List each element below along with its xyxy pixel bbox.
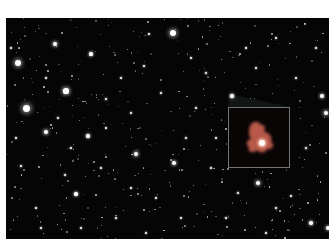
faint-star <box>50 124 52 126</box>
faint-star <box>76 27 77 28</box>
faint-star <box>78 78 79 79</box>
faint-star <box>299 208 301 210</box>
faint-star <box>38 25 39 26</box>
faint-star <box>98 99 99 100</box>
faint-star <box>246 202 247 203</box>
faint-star <box>84 117 85 118</box>
faint-star <box>163 230 164 231</box>
faint-star <box>139 36 140 37</box>
faint-star <box>255 84 257 86</box>
faint-star <box>95 194 97 196</box>
faint-star <box>11 141 12 142</box>
faint-star <box>175 29 176 30</box>
faint-star <box>122 123 123 124</box>
faint-star <box>224 72 225 73</box>
faint-star <box>183 195 184 196</box>
faint-star <box>211 107 212 108</box>
faint-star <box>283 198 284 199</box>
faint-star <box>47 91 49 93</box>
faint-star <box>41 37 42 38</box>
faint-star <box>149 188 150 189</box>
faint-star <box>278 85 279 86</box>
faint-star <box>108 19 109 20</box>
faint-star <box>188 196 190 198</box>
faint-star <box>145 138 146 139</box>
star-point <box>230 94 233 97</box>
faint-star <box>319 143 320 144</box>
faint-star <box>143 167 145 169</box>
faint-star <box>117 172 118 173</box>
faint-star <box>178 154 179 155</box>
faint-star <box>203 211 204 212</box>
faint-star <box>79 120 80 121</box>
faint-star <box>35 31 36 32</box>
faint-star <box>67 180 69 182</box>
faint-star <box>62 185 63 186</box>
star-point <box>89 52 92 55</box>
faint-star <box>304 23 305 24</box>
faint-star <box>108 173 109 174</box>
faint-star <box>97 227 98 228</box>
faint-star <box>184 225 185 226</box>
faint-star <box>147 21 149 23</box>
faint-star <box>278 43 279 44</box>
faint-star <box>279 210 281 212</box>
faint-star <box>267 45 269 47</box>
faint-star <box>259 62 260 63</box>
faint-star <box>38 28 39 29</box>
faint-star <box>150 53 152 55</box>
faint-star <box>200 145 201 146</box>
faint-star <box>134 175 136 177</box>
faint-star <box>125 146 126 147</box>
faint-star <box>198 160 199 161</box>
star-point <box>309 221 313 225</box>
faint-star <box>7 105 8 106</box>
galaxy-icon <box>229 108 289 167</box>
faint-star <box>24 35 26 37</box>
faint-star <box>133 62 135 64</box>
faint-star <box>222 22 224 24</box>
faint-star <box>221 181 223 183</box>
faint-star <box>325 152 327 154</box>
faint-star <box>77 158 79 160</box>
faint-star <box>144 35 145 36</box>
faint-star <box>206 43 208 45</box>
star-point <box>170 30 176 36</box>
faint-star <box>284 237 286 239</box>
faint-star <box>61 32 63 34</box>
star-point <box>63 88 68 93</box>
faint-star <box>245 88 246 89</box>
faint-star <box>41 178 42 179</box>
faint-star <box>181 169 183 171</box>
faint-star <box>21 174 22 175</box>
faint-star <box>73 149 74 150</box>
faint-star <box>311 125 313 127</box>
faint-star <box>250 42 251 43</box>
faint-star <box>96 97 98 99</box>
faint-star <box>141 32 142 33</box>
faint-star <box>127 49 128 50</box>
faint-star <box>205 184 206 185</box>
faint-star <box>105 154 106 155</box>
faint-star <box>114 178 116 180</box>
faint-star <box>47 70 49 72</box>
faint-star <box>170 159 172 161</box>
faint-star <box>81 61 82 62</box>
star-point <box>23 105 30 112</box>
faint-star <box>161 238 162 239</box>
faint-star <box>137 193 138 194</box>
faint-star <box>100 238 102 239</box>
faint-star <box>77 46 78 47</box>
faint-star <box>255 173 256 174</box>
faint-star <box>37 215 39 217</box>
faint-star <box>311 60 312 61</box>
faint-star <box>14 84 16 86</box>
faint-star <box>131 154 133 156</box>
faint-star <box>204 68 205 69</box>
faint-star <box>114 54 116 56</box>
faint-star <box>207 76 209 78</box>
faint-star <box>57 224 58 225</box>
faint-star <box>72 160 74 162</box>
faint-star <box>143 209 145 211</box>
faint-star <box>289 43 291 45</box>
